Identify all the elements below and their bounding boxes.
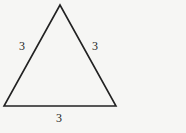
left-side-label: 3 (19, 40, 25, 52)
triangle-shape (0, 0, 186, 133)
triangle-outline (4, 5, 116, 106)
right-side-label: 3 (92, 40, 98, 52)
triangle-diagram: 3 3 3 (0, 0, 186, 133)
bottom-side-label: 3 (56, 112, 62, 124)
